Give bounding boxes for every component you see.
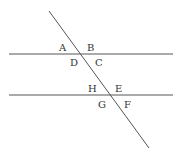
parallel-lines-diagram: ABDCHEGF xyxy=(0,0,186,159)
transversal-line xyxy=(49,11,149,148)
angle-label-g: G xyxy=(98,99,106,110)
angle-label-b: B xyxy=(87,42,94,53)
angle-label-a: A xyxy=(58,42,67,53)
angle-label-c: C xyxy=(95,57,103,68)
angle-label-d: D xyxy=(70,57,78,68)
angle-label-e: E xyxy=(115,83,122,94)
angle-label-h: H xyxy=(88,83,97,94)
angle-label-f: F xyxy=(124,99,131,110)
